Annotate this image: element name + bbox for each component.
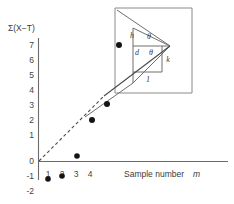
y-tick-6: 6 [29,55,34,65]
data-point [59,173,65,179]
inset-apex-back-edge [133,28,170,46]
y-tick-5: 5 [29,70,34,80]
inset-upper-diagonal [117,10,170,46]
x-axis-label-symbol: m [193,169,200,179]
data-point [116,42,122,48]
data-point [104,101,110,107]
trend-line-dashed [39,96,104,161]
y-tick-0: 0 [29,156,34,166]
data-point [89,117,95,123]
inset-label-theta-upper: θ [147,32,151,41]
inset-label-theta-lower: θ [149,48,153,57]
inset-label-one: 1 [146,75,150,84]
x-axis-label: Sample number [124,169,184,179]
inset-label-k: k [166,55,170,64]
cusum-chart-figure: h θ d θ k 1 7 6 5 4 3 2 1 0 -1 -2 [0,0,234,204]
chart-canvas: h θ d θ k 1 7 6 5 4 3 2 1 0 -1 -2 [0,0,234,204]
x-tick-4: 4 [88,169,93,179]
x-axis-tick-labels: 1 2 3 4 [46,169,93,179]
y-axis-tick-labels: 7 6 5 4 3 2 1 0 -1 -2 [26,40,34,196]
inset-label-d: d [135,48,140,57]
y-axis-label: Σ(X−T) [8,23,35,33]
inset-extension-to-origin [85,83,133,117]
x-tick-3: 3 [74,169,79,179]
data-point [74,153,80,159]
data-points [45,42,122,182]
y-tick-2: 2 [29,115,34,125]
y-tick-1: 1 [29,130,34,140]
inset-label-h: h [130,31,134,40]
y-tick-neg2: -2 [26,186,34,196]
y-tick-4: 4 [29,85,34,95]
y-tick-7: 7 [29,40,34,50]
slope-geometry-inset: h θ d θ k 1 [85,8,192,117]
data-point [45,176,51,182]
inset-border [115,8,192,93]
y-tick-neg1: -1 [26,171,34,181]
y-tick-3: 3 [29,100,34,110]
